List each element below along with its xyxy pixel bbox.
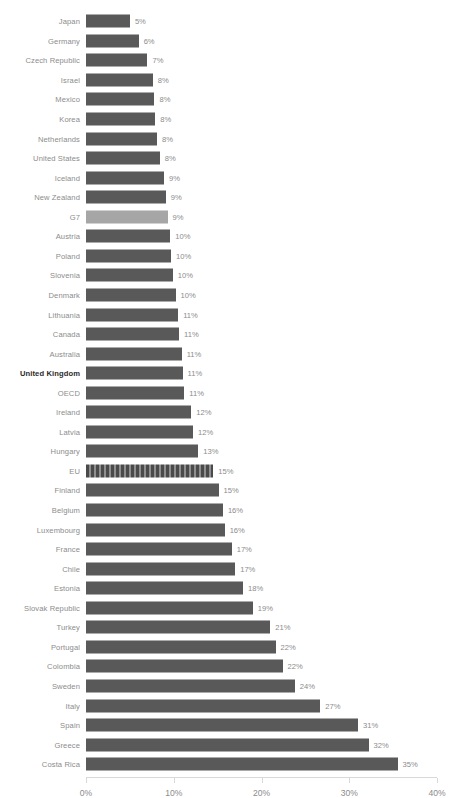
bar-value-label: 6% bbox=[144, 36, 155, 45]
bar-track bbox=[86, 73, 153, 86]
bar bbox=[86, 73, 153, 86]
bar-track bbox=[86, 152, 160, 165]
bar-value-label: 16% bbox=[228, 506, 243, 515]
bar bbox=[86, 601, 253, 614]
bar-category-label: United States bbox=[0, 154, 80, 163]
bar-category-label: Denmark bbox=[0, 290, 80, 299]
bar-track bbox=[86, 679, 295, 692]
chart-bar-row: France17% bbox=[0, 539, 456, 559]
bar bbox=[86, 132, 157, 145]
bar-category-label: Czech Republic bbox=[0, 56, 80, 65]
chart-bar-row: Luxembourg16% bbox=[0, 520, 456, 540]
bar bbox=[86, 269, 173, 282]
bar bbox=[86, 719, 358, 732]
bar-value-label: 10% bbox=[176, 251, 191, 260]
bar-category-label: Luxembourg bbox=[0, 525, 80, 534]
bar-value-label: 11% bbox=[188, 369, 203, 378]
bar-track bbox=[86, 562, 235, 575]
bar-value-label: 17% bbox=[237, 545, 252, 554]
bar-value-label: 9% bbox=[173, 212, 184, 221]
bar-category-label: Mexico bbox=[0, 95, 80, 104]
bar bbox=[86, 386, 184, 399]
chart-bar-row: Japan5% bbox=[0, 12, 456, 32]
bar-track bbox=[86, 15, 130, 28]
bar-category-label: Estonia bbox=[0, 584, 80, 593]
bar bbox=[86, 640, 276, 653]
chart-bar-row: Italy27% bbox=[0, 696, 456, 716]
bar-value-label: 8% bbox=[162, 134, 173, 143]
bar-track bbox=[86, 621, 270, 634]
bar bbox=[86, 660, 283, 673]
bar-track bbox=[86, 171, 164, 184]
bar bbox=[86, 288, 176, 301]
chart-bar-row: Germany6% bbox=[0, 31, 456, 51]
chart-bar-row: Iceland9% bbox=[0, 168, 456, 188]
bar-value-label: 5% bbox=[135, 17, 146, 26]
bar-track bbox=[86, 660, 283, 673]
bar bbox=[86, 504, 223, 517]
chart-bar-row: Israel8% bbox=[0, 70, 456, 90]
bar-track bbox=[86, 601, 253, 614]
bar-track bbox=[86, 288, 176, 301]
bar-category-label: G7 bbox=[0, 212, 80, 221]
bar bbox=[86, 347, 182, 360]
chart-bar-row: Canada11% bbox=[0, 324, 456, 344]
bar-track bbox=[86, 758, 398, 771]
bar-category-label: New Zealand bbox=[0, 193, 80, 202]
bar-category-label: Austria bbox=[0, 232, 80, 241]
bar bbox=[86, 699, 320, 712]
chart-bar-row: G79% bbox=[0, 207, 456, 227]
bar-track bbox=[86, 328, 179, 341]
bar-value-label: 8% bbox=[160, 115, 171, 124]
bar-category-label: Italy bbox=[0, 701, 80, 710]
bar-value-label: 10% bbox=[181, 290, 196, 299]
bar bbox=[86, 328, 179, 341]
chart-bar-row: EU15% bbox=[0, 461, 456, 481]
bar-value-label: 12% bbox=[198, 427, 213, 436]
chart-bar-row: Finland15% bbox=[0, 481, 456, 501]
bar bbox=[86, 230, 170, 243]
bar bbox=[86, 621, 270, 634]
bar-track bbox=[86, 582, 243, 595]
bar-category-label: Germany bbox=[0, 36, 80, 45]
bar-value-label: 11% bbox=[183, 310, 198, 319]
chart-bar-row: Austria10% bbox=[0, 227, 456, 247]
bar-category-label: Latvia bbox=[0, 427, 80, 436]
x-axis-tick-label: 30% bbox=[341, 788, 358, 798]
chart-bar-row: Costa Rica35% bbox=[0, 754, 456, 774]
bar bbox=[86, 93, 154, 106]
bar bbox=[86, 308, 178, 321]
bar-category-label: EU bbox=[0, 466, 80, 475]
chart-bar-row: Australia11% bbox=[0, 344, 456, 364]
bar-value-label: 8% bbox=[165, 154, 176, 163]
bar bbox=[86, 152, 160, 165]
bar-value-label: 24% bbox=[300, 681, 315, 690]
bar-category-label: France bbox=[0, 545, 80, 554]
bar bbox=[86, 54, 147, 67]
bar-category-label: United Kingdom bbox=[0, 369, 80, 378]
bar-value-label: 12% bbox=[196, 408, 211, 417]
bar-value-label: 16% bbox=[230, 525, 245, 534]
chart-bar-row: Poland10% bbox=[0, 246, 456, 266]
chart-bar-row: Slovak Republic19% bbox=[0, 598, 456, 618]
bar bbox=[86, 171, 164, 184]
x-axis-tick-label: 20% bbox=[253, 788, 270, 798]
bar-value-label: 10% bbox=[175, 232, 190, 241]
bar-category-label: Lithuania bbox=[0, 310, 80, 319]
bar bbox=[86, 191, 166, 204]
bar-category-label: Poland bbox=[0, 251, 80, 260]
bar-value-label: 13% bbox=[203, 447, 218, 456]
bar bbox=[86, 113, 155, 126]
bar-value-label: 21% bbox=[275, 623, 290, 632]
bar-track bbox=[86, 386, 184, 399]
bar-category-label: Chile bbox=[0, 564, 80, 573]
chart-bar-row: Netherlands8% bbox=[0, 129, 456, 149]
bar-category-label: Netherlands bbox=[0, 134, 80, 143]
bar bbox=[86, 34, 139, 47]
chart-bar-row: New Zealand9% bbox=[0, 187, 456, 207]
bar-category-label: Israel bbox=[0, 75, 80, 84]
bar-category-label: Finland bbox=[0, 486, 80, 495]
bar-track bbox=[86, 191, 166, 204]
bar-track bbox=[86, 484, 219, 497]
